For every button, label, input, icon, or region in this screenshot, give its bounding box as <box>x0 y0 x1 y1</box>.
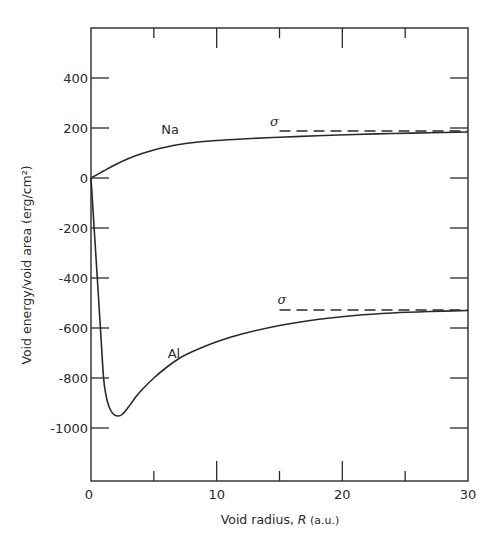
y-tick-label: -400 <box>58 271 88 286</box>
plot-border <box>91 28 468 481</box>
x-tick-label: 10 <box>208 487 225 502</box>
y-tick-label: -200 <box>58 221 88 236</box>
curve-labels: NaAl <box>161 122 180 361</box>
sigma-label-na: σ <box>270 114 280 129</box>
x-axis-label: Void radius, R (a.u.) <box>221 512 340 527</box>
x-axis-ticks: 0102030 <box>85 28 476 502</box>
x-tick-label: 30 <box>460 487 477 502</box>
y-tick-label: -1000 <box>50 421 88 436</box>
sigma-label-al: σ <box>278 292 288 307</box>
y-tick-label: -600 <box>58 321 88 336</box>
y-axis-ticks: 4002000-200-400-600-800-1000 <box>50 71 468 436</box>
curve-label-na: Na <box>161 122 179 137</box>
sigma-asymptotes: σσ <box>270 114 468 311</box>
plot-frame <box>91 28 468 481</box>
y-tick-label: -800 <box>58 371 88 386</box>
y-tick-label: 200 <box>63 121 88 136</box>
curve-label-al: Al <box>168 346 181 361</box>
y-tick-label: 400 <box>63 71 88 86</box>
data-curves <box>91 132 468 416</box>
curve-na <box>91 132 468 178</box>
x-tick-label: 20 <box>334 487 351 502</box>
y-axis-label: Void energy/void area (erg/cm²) <box>19 165 34 364</box>
y-tick-label: 0 <box>80 171 88 186</box>
x-tick-label: 0 <box>85 487 93 502</box>
void-energy-chart: 0102030 4002000-200-400-600-800-1000 σσ … <box>0 0 496 540</box>
